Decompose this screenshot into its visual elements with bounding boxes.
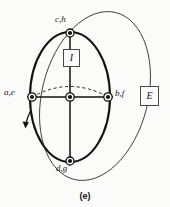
node-label-right: b,f <box>115 89 124 98</box>
figure-caption: (e) <box>0 191 170 201</box>
inner-orbit-box-label: I <box>63 49 80 67</box>
node-right <box>104 93 112 101</box>
outer-orbit-box-label: E <box>140 86 159 106</box>
figure-container: a,e b,f c,h d,g I E (e) <box>0 0 170 207</box>
node-left <box>28 93 36 101</box>
node-top <box>66 29 74 37</box>
node-label-bottom: d,g <box>56 164 67 173</box>
node-label-top: c,h <box>55 15 66 24</box>
node-label-left: a,e <box>4 88 15 97</box>
node-center <box>66 93 74 101</box>
rotation-arrow-icon <box>23 110 31 129</box>
